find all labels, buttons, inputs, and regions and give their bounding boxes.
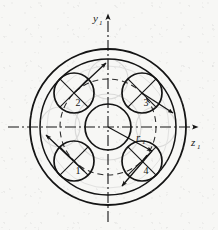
r1-label: r bbox=[136, 131, 141, 143]
y1-axis-label: y bbox=[92, 12, 98, 24]
figure-canvas: 2 3 1 4 r 1 bbox=[0, 0, 218, 230]
axes-group bbox=[8, 14, 198, 222]
planet-4: 4 bbox=[122, 141, 162, 186]
planetary-gear-diagram: 2 3 1 4 r 1 bbox=[0, 0, 218, 230]
z1-axis-label: z bbox=[190, 136, 196, 148]
r1-label-subscript: 1 bbox=[142, 138, 146, 146]
planet-3-label: 3 bbox=[144, 97, 149, 108]
planet-2-label: 2 bbox=[76, 97, 81, 108]
z1-axis-label-subscript: 1 bbox=[197, 143, 201, 151]
y1-axis-label-subscript: 1 bbox=[99, 19, 103, 27]
planet-4-label: 4 bbox=[144, 165, 149, 176]
planet-1-label: 1 bbox=[76, 165, 81, 176]
